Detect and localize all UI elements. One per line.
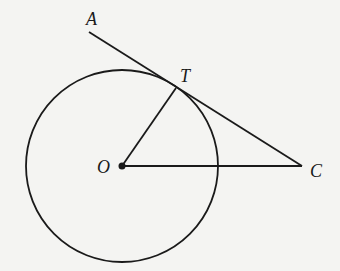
tangent-line-AC — [89, 32, 302, 166]
geometry-diagram: A T O C — [0, 0, 340, 271]
center-point-O — [119, 163, 126, 170]
label-O: O — [97, 157, 110, 177]
radius-OT — [122, 88, 176, 166]
label-C: C — [310, 161, 323, 181]
label-A: A — [85, 9, 98, 29]
label-T: T — [180, 66, 192, 86]
